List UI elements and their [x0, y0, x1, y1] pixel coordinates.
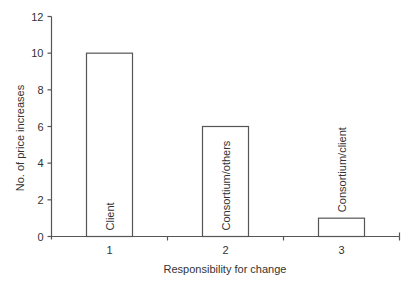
y-tick-label: 0	[37, 231, 43, 243]
y-tick-label: 4	[37, 157, 43, 169]
y-axis: 024681012	[31, 11, 51, 243]
bar-3: Consortium/client	[319, 127, 365, 236]
bar-label: Client	[104, 202, 116, 230]
bar-label: Consortium/client	[336, 127, 348, 212]
bar-1: Client	[87, 53, 133, 236]
y-tick-label: 12	[31, 11, 43, 23]
y-axis-title: No. of price increases	[14, 84, 26, 191]
bar-label: Consortium/others	[220, 140, 232, 230]
bar-2: Consortium/others	[203, 127, 249, 237]
bar-chart: 024681012 123 ClientConsortium/othersCon…	[0, 0, 409, 288]
x-tick-label: 2	[222, 244, 228, 256]
y-tick-label: 6	[37, 121, 43, 133]
x-axis-title: Responsibility for change	[164, 263, 287, 275]
y-tick-label: 10	[31, 47, 43, 59]
x-tick-label: 1	[106, 244, 112, 256]
bars: ClientConsortium/othersConsortium/client	[87, 53, 365, 236]
x-tick-label: 3	[338, 244, 344, 256]
y-tick-label: 2	[37, 194, 43, 206]
y-tick-label: 8	[37, 84, 43, 96]
